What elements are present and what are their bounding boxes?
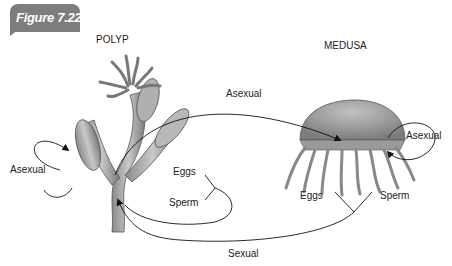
diagram-graphics [0,0,452,266]
sexual-label: Sexual [228,248,259,259]
eggs-polyp-label: Eggs [173,166,196,177]
polyp-label: POLYP [96,34,129,45]
medusa-illustration-icon [286,100,414,195]
polyp-gamete-bracket [205,175,215,200]
asexual-right-label: Asexual [406,130,442,141]
medusa-label: MEDUSA [324,40,367,51]
sperm-medusa-label: Sperm [380,190,409,201]
eggs-medusa-label: Eggs [300,190,323,201]
asexual-left-tail [44,188,72,197]
life-cycle-diagram: Figure 7.22 [0,0,452,266]
asexual-left-label: Asexual [10,164,46,175]
sperm-polyp-label: Sperm [169,197,198,208]
asexual-top-label: Asexual [226,88,262,99]
